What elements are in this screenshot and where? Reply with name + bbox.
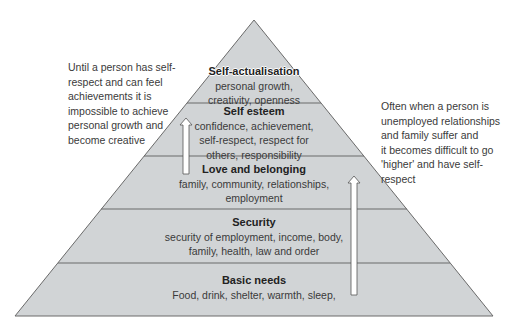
tier-self-esteem: Self esteem confidence, achievement, sel…: [174, 104, 334, 162]
tier-self-actualisation: Self-actualisation personal growth, crea…: [184, 64, 324, 108]
tier-body: family, community, relationships, employ…: [149, 177, 359, 206]
tier-title: Basic needs: [149, 273, 359, 288]
tier-title: Self esteem: [174, 104, 334, 119]
tier-basic-needs: Basic needs Food, drink, shelter, warmth…: [149, 273, 359, 302]
tier-title: Love and belonging: [149, 162, 359, 177]
tier-security: Security security of employment, income,…: [129, 215, 379, 259]
note-left: Until a person has self- respect and can…: [68, 60, 178, 147]
tier-love-and-belonging: Love and belonging family, community, re…: [149, 162, 359, 206]
note-right: Often when a person is unemployed relati…: [381, 99, 509, 186]
tier-title: Security: [129, 215, 379, 230]
tier-body: security of employment, income, body, fa…: [129, 230, 379, 259]
tier-body: Food, drink, shelter, warmth, sleep,: [149, 288, 359, 303]
tier-title: Self-actualisation: [184, 64, 324, 79]
tier-body: confidence, achievement, self-respect, r…: [174, 119, 334, 163]
